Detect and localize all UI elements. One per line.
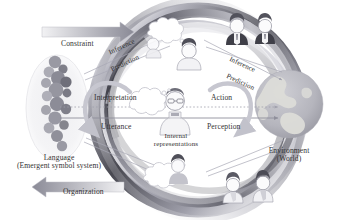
environment-line-2: (World) bbox=[248, 155, 330, 163]
label-action: Action bbox=[211, 94, 232, 102]
label-utterance: Utterance bbox=[101, 123, 131, 131]
diagram-graphics bbox=[0, 0, 343, 220]
label-organization: Organization bbox=[63, 188, 104, 196]
globe-icon bbox=[255, 70, 323, 138]
label-interpretation: Interpretation bbox=[94, 94, 137, 102]
internal-line-2: representations bbox=[133, 141, 219, 149]
label-internal-representations: Internal representations bbox=[133, 133, 219, 148]
diagram-canvas: Constraint Organization Inference Predic… bbox=[0, 0, 343, 220]
label-constraint: Constraint bbox=[61, 40, 94, 48]
label-environment: Environment (World) bbox=[248, 147, 330, 163]
label-language: Language (Emergent symbol system) bbox=[0, 154, 118, 170]
language-line-2: (Emergent symbol system) bbox=[0, 162, 118, 170]
label-perception: Perception bbox=[207, 123, 240, 131]
